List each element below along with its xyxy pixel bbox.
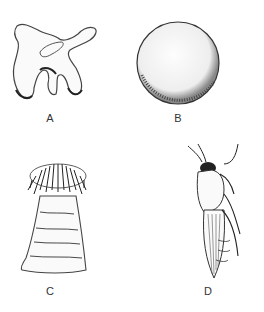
panel-b: B [132,0,264,150]
panel-a: A [0,0,132,150]
sphere-illustration [132,0,264,150]
label-d: D [198,285,218,297]
label-a: A [40,112,60,124]
anemone-illustration [0,150,132,312]
panel-c: C [0,150,132,312]
amoeba-illustration [0,0,132,150]
label-c: C [40,285,60,297]
panel-d: D [132,150,264,312]
label-b: B [168,112,188,124]
